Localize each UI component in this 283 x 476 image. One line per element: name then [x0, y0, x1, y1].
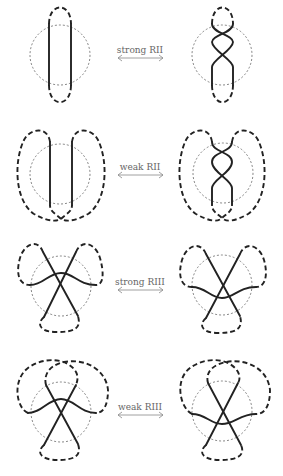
move-label-weak-riii: weak RIII [118, 402, 162, 412]
closure-arc [49, 8, 71, 25]
move-label-weak-rii: weak RII [120, 162, 161, 172]
double-arrow-weak-riii [118, 412, 163, 418]
weak-rii-right-tangle [179, 131, 264, 221]
strand [212, 142, 232, 205]
move-label-strong-riii: strong RIII [115, 277, 165, 287]
weak-riii-left-tangle [17, 360, 108, 460]
closure-arc [202, 445, 242, 460]
strand [206, 383, 238, 445]
double-arrow-strong-riii [118, 287, 163, 293]
strong-riii-left-tangle [18, 244, 102, 332]
strong-rii-right-tangle [192, 8, 252, 103]
closure-arc [207, 361, 270, 414]
strand [212, 24, 233, 85]
weak-riii-right-tangle [180, 360, 270, 460]
closure-arc [202, 316, 241, 333]
closure-arc [212, 85, 233, 102]
strand [192, 414, 256, 424]
double-arrow-strong-rii [118, 55, 163, 61]
strong-rii-left-tangle [30, 8, 90, 103]
closure-arc [212, 8, 233, 25]
strand [44, 385, 76, 445]
strong-riii-right-tangle [180, 246, 266, 333]
disk-boundary [30, 144, 90, 204]
closure-arc [40, 316, 79, 332]
strand [208, 383, 241, 445]
closure-arc [212, 131, 265, 221]
move-label-strong-rii: strong RII [117, 45, 163, 55]
closure-arc [76, 244, 103, 285]
closure-arc [49, 85, 71, 102]
closure-arc [50, 131, 105, 221]
disk-boundary [30, 25, 90, 85]
strand [46, 385, 78, 444]
weak-rii-left-tangle [17, 131, 104, 221]
closure-arc [18, 244, 43, 285]
double-arrow-weak-rii [118, 172, 163, 178]
closure-arc [240, 246, 266, 287]
closure-arc [179, 131, 232, 221]
closure-arc [180, 246, 206, 287]
closure-arc [40, 444, 79, 460]
